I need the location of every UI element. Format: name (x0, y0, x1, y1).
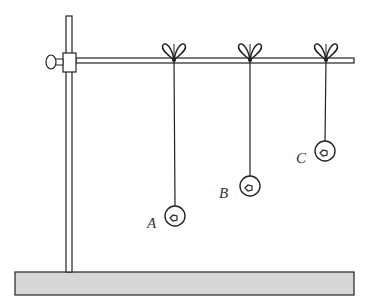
pendulum-label-c: C (296, 150, 307, 166)
stand-base (15, 272, 354, 295)
pendulum-label-b: B (219, 185, 228, 201)
clamp-knob (46, 55, 56, 69)
pendulums: ABC (146, 44, 338, 231)
pendulum-label-a: A (146, 215, 157, 231)
horizontal-rod (76, 58, 354, 63)
pendulum-a: A (146, 44, 186, 231)
pendulum-b: B (219, 44, 262, 201)
pendulum-apparatus-diagram: ABC (0, 0, 381, 304)
pendulum-string (325, 60, 326, 141)
pendulum-string (174, 60, 175, 206)
boss-clamp (63, 53, 76, 72)
